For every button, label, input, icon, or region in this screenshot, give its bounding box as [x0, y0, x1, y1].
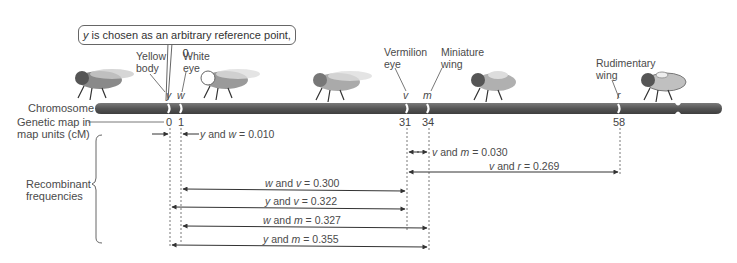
map-position-r: 58	[613, 116, 625, 128]
freq-y-w: y and w = 0.010	[200, 128, 274, 140]
freq-w-m: w and m = 0.327	[263, 214, 341, 226]
gene-name-yellow-body: Yellowbody	[136, 50, 166, 74]
freq-v-r: v and r = 0.269	[489, 160, 559, 172]
gene-symbol-y: y	[166, 89, 171, 101]
recombinant-frequencies-label: Recombinantfrequencies	[26, 178, 91, 202]
chromosome-label: Chromosome	[28, 102, 94, 114]
gene-name-miniature-wing: Miniaturewing	[441, 46, 484, 70]
fly-vermilion-eye-icon	[313, 71, 372, 102]
gene-name-rudimentary-wing: Rudimentarywing	[596, 57, 656, 81]
gene-symbol-w: w	[177, 89, 185, 101]
reference-point-callout: y is chosen as an arbitrary reference po…	[78, 25, 296, 45]
freq-y-m: y and m = 0.355	[263, 233, 339, 245]
gene-name-white-eye: Whiteeye	[183, 50, 210, 74]
freq-v-m: v and m = 0.030	[432, 146, 508, 158]
fly-yellow-body-icon	[75, 69, 134, 100]
fly-white-eye-icon	[201, 69, 260, 100]
gene-symbol-m: m	[423, 89, 432, 101]
freq-y-v: y and v = 0.322	[265, 195, 337, 207]
map-position-w: 1	[178, 116, 184, 128]
gene-symbol-r: r	[617, 89, 621, 101]
freq-w-v: w and v = 0.300	[265, 177, 339, 189]
gene-symbol-v: v	[403, 89, 408, 101]
gene-name-vermilion-eye: Vermilioneye	[384, 46, 427, 70]
map-position-y: 0	[166, 116, 172, 128]
map-position-m: 34	[422, 116, 434, 128]
fly-miniature-wing-icon	[471, 71, 516, 102]
genetic-map-label: Genetic map inmap units (cM)	[17, 116, 91, 140]
chromosome-bar	[95, 103, 722, 114]
map-position-v: 31	[399, 116, 411, 128]
